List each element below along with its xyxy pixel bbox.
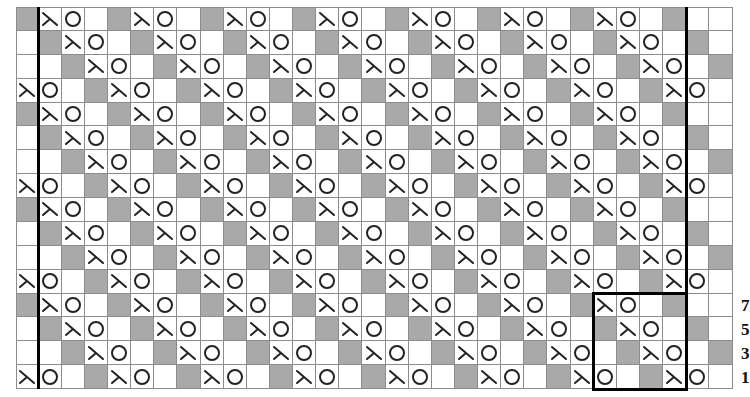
decrease-cell (177, 246, 200, 270)
gray-no-stitch-cell (154, 150, 177, 174)
decrease-cell (571, 270, 594, 294)
knit-cell (85, 294, 108, 318)
decrease-cell (524, 126, 547, 150)
yarn-over-circle-icon (480, 248, 498, 266)
decrease-lambda-icon (249, 321, 267, 337)
yarn-over-circle-icon (388, 248, 406, 266)
gray-no-stitch-cell (85, 365, 108, 389)
gray-no-stitch-cell (316, 222, 339, 246)
decrease-lambda-icon (365, 154, 383, 170)
knit-cell (686, 55, 709, 79)
decrease-cell (339, 222, 362, 246)
gray-no-stitch-cell (154, 246, 177, 270)
knit-cell (386, 126, 409, 150)
gray-no-stitch-cell (316, 317, 339, 341)
decrease-cell (62, 222, 85, 246)
decrease-lambda-icon (64, 321, 82, 337)
yarn-over-cell (201, 246, 224, 270)
yarn-over-cell (201, 150, 224, 174)
yarn-over-cell (686, 365, 709, 389)
gray-no-stitch-cell (709, 150, 732, 174)
decrease-cell (154, 126, 177, 150)
decrease-cell (409, 198, 432, 222)
decrease-lambda-icon (156, 34, 174, 50)
yarn-over-cell (224, 365, 247, 389)
gray-no-stitch-cell (478, 7, 501, 31)
gray-no-stitch-cell (85, 270, 108, 294)
knit-cell (709, 317, 732, 341)
gray-no-stitch-cell (663, 103, 686, 127)
decrease-lambda-icon (480, 273, 498, 289)
gray-no-stitch-cell (16, 198, 39, 222)
yarn-over-cell (224, 79, 247, 103)
knit-cell (362, 294, 385, 318)
yarn-over-cell (339, 103, 362, 127)
decrease-cell (478, 174, 501, 198)
yarn-over-circle-icon (272, 33, 290, 51)
yarn-over-circle-icon (249, 10, 267, 28)
decrease-cell (108, 174, 131, 198)
yarn-over-circle-icon (226, 177, 244, 195)
yarn-over-cell (640, 222, 663, 246)
yarn-over-circle-icon (480, 153, 498, 171)
yarn-over-circle-icon (295, 153, 313, 171)
yarn-over-cell (247, 103, 270, 127)
knit-cell (16, 222, 39, 246)
decrease-lambda-icon (203, 369, 221, 385)
yarn-over-circle-icon (203, 57, 221, 75)
gray-no-stitch-cell (62, 341, 85, 365)
gray-no-stitch-cell (409, 126, 432, 150)
gray-no-stitch-cell (594, 126, 617, 150)
stitch-grid (16, 7, 733, 389)
gray-no-stitch-cell (686, 31, 709, 55)
knit-cell (339, 174, 362, 198)
knit-cell (62, 79, 85, 103)
yarn-over-circle-icon (133, 177, 151, 195)
gray-no-stitch-cell (362, 79, 385, 103)
decrease-cell (108, 79, 131, 103)
decrease-lambda-icon (249, 34, 267, 50)
gray-no-stitch-cell (39, 222, 62, 246)
knit-cell (571, 126, 594, 150)
gray-no-stitch-cell (617, 246, 640, 270)
yarn-over-circle-icon (596, 177, 614, 195)
decrease-lambda-icon (619, 130, 637, 146)
decrease-cell (316, 198, 339, 222)
knit-cell (16, 126, 39, 150)
decrease-cell (177, 150, 200, 174)
gray-no-stitch-cell (362, 174, 385, 198)
decrease-cell (547, 246, 570, 270)
yarn-over-circle-icon (480, 57, 498, 75)
knit-cell (247, 174, 270, 198)
yarn-over-circle-icon (41, 368, 59, 386)
decrease-lambda-icon (18, 369, 36, 385)
decrease-lambda-icon (411, 11, 429, 27)
gray-no-stitch-cell (201, 294, 224, 318)
gray-no-stitch-cell (224, 222, 247, 246)
knit-cell (247, 365, 270, 389)
decrease-lambda-icon (642, 58, 660, 74)
decrease-lambda-icon (156, 225, 174, 241)
knit-cell (177, 103, 200, 127)
decrease-cell (524, 31, 547, 55)
knit-cell (571, 222, 594, 246)
yarn-over-circle-icon (226, 272, 244, 290)
gray-no-stitch-cell (524, 246, 547, 270)
decrease-lambda-icon (434, 225, 452, 241)
decrease-cell (293, 174, 316, 198)
yarn-over-circle-icon (272, 129, 290, 147)
yarn-over-cell (362, 31, 385, 55)
decrease-cell (617, 126, 640, 150)
knit-cell (571, 317, 594, 341)
yarn-over-cell (131, 270, 154, 294)
knit-cell (640, 198, 663, 222)
yarn-over-circle-icon (203, 153, 221, 171)
gray-no-stitch-cell (617, 55, 640, 79)
yarn-over-circle-icon (665, 153, 683, 171)
knit-cell (501, 341, 524, 365)
yarn-over-circle-icon (411, 368, 429, 386)
yarn-over-cell (594, 270, 617, 294)
yarn-over-cell (386, 150, 409, 174)
knit-cell (16, 55, 39, 79)
yarn-over-circle-icon (503, 177, 521, 195)
